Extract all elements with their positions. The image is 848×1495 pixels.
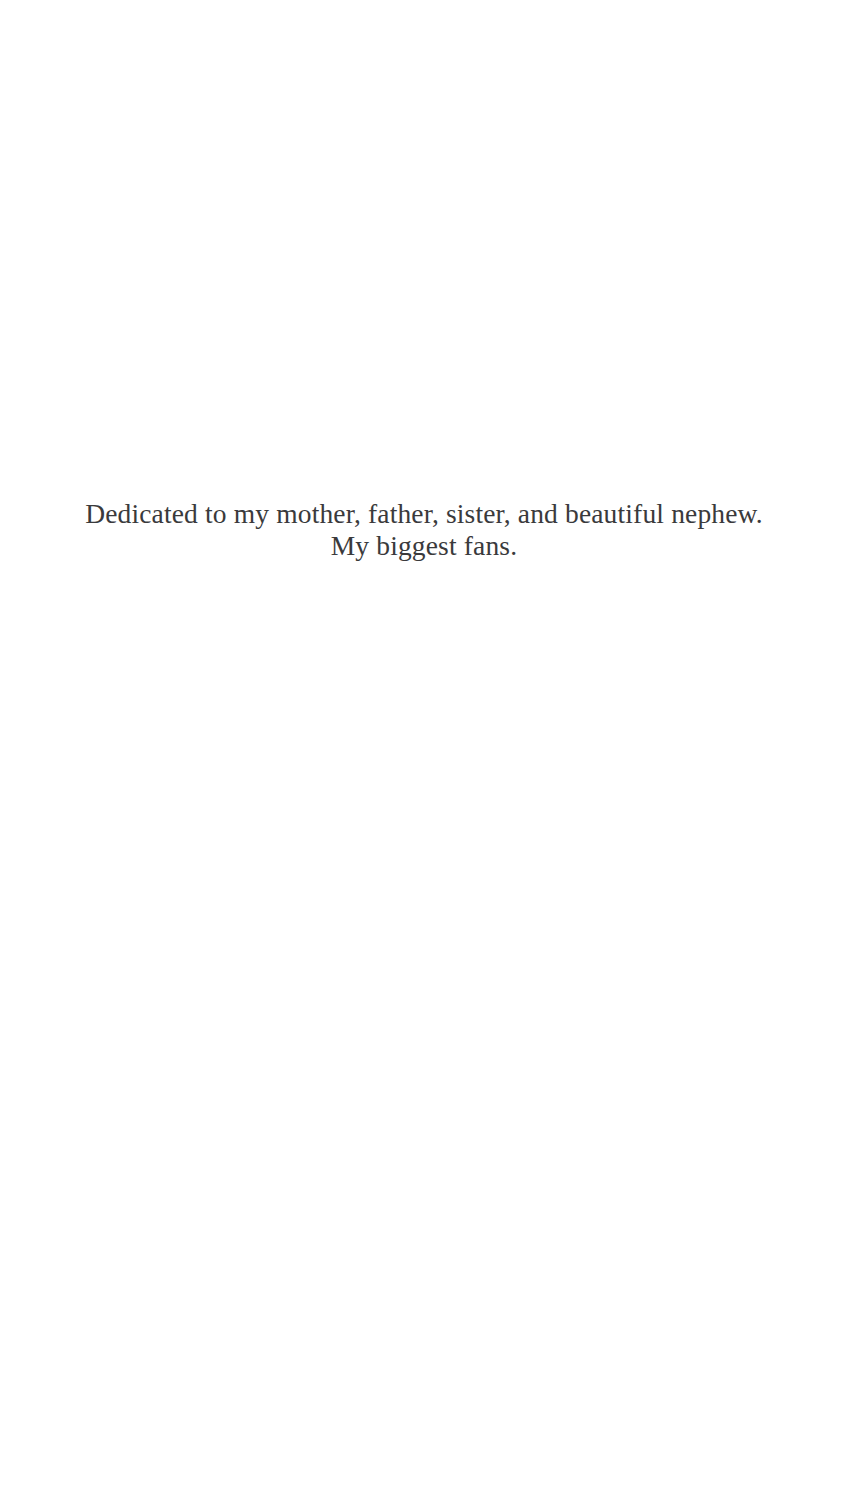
dedication-text-block: Dedicated to my mother, father, sister, … [0, 498, 848, 562]
dedication-line-1: Dedicated to my mother, father, sister, … [40, 498, 808, 530]
dedication-page: Dedicated to my mother, father, sister, … [0, 0, 848, 1495]
dedication-line-2: My biggest fans. [40, 530, 808, 562]
